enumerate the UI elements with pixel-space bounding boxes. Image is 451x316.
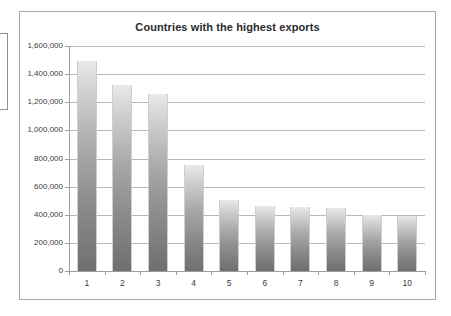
x-axis-tick-label: 6 bbox=[262, 278, 267, 288]
y-axis-tick-label: 1,400,000 bbox=[19, 69, 63, 78]
bar bbox=[184, 165, 204, 271]
x-axis-tick-mark bbox=[354, 271, 355, 275]
x-axis-tick-mark bbox=[389, 271, 390, 275]
y-axis-tick-mark bbox=[65, 187, 69, 188]
y-axis-tick-label: 400,000 bbox=[19, 210, 63, 219]
bar bbox=[362, 215, 382, 271]
x-axis-tick-label: 8 bbox=[334, 278, 339, 288]
bar bbox=[290, 207, 310, 271]
chart-container: Countries with the highest exports 0200,… bbox=[19, 11, 436, 300]
x-axis-tick-mark bbox=[318, 271, 319, 275]
x-axis-tick-mark bbox=[247, 271, 248, 275]
y-axis-tick-mark bbox=[65, 215, 69, 216]
x-axis-tick-mark bbox=[283, 271, 284, 275]
bar bbox=[255, 206, 275, 271]
bar bbox=[148, 94, 168, 271]
x-axis-tick-mark bbox=[176, 271, 177, 275]
bar bbox=[112, 85, 132, 271]
y-axis-tick-mark bbox=[65, 74, 69, 75]
x-axis-tick-label: 3 bbox=[156, 278, 161, 288]
y-axis-tick-label: 1,200,000 bbox=[19, 97, 63, 106]
x-axis-tick-label: 5 bbox=[227, 278, 232, 288]
bar-series bbox=[69, 46, 425, 271]
x-axis-tick-label: 10 bbox=[402, 278, 411, 288]
bar bbox=[219, 200, 239, 271]
chart-title: Countries with the highest exports bbox=[20, 21, 435, 33]
y-axis-tick-label: 1,600,000 bbox=[19, 41, 63, 50]
x-axis-tick-label: 4 bbox=[191, 278, 196, 288]
cropped-adjacent-panel bbox=[0, 33, 8, 110]
x-axis-tick-mark bbox=[140, 271, 141, 275]
y-axis-tick-mark bbox=[65, 159, 69, 160]
y-axis-tick-label: 200,000 bbox=[19, 238, 63, 247]
x-axis-tick-mark bbox=[105, 271, 106, 275]
bar bbox=[77, 61, 97, 271]
y-axis-tick-label: 0 bbox=[19, 266, 63, 275]
bar bbox=[397, 216, 417, 271]
x-axis-tick-label: 2 bbox=[120, 278, 125, 288]
x-axis-tick-label: 9 bbox=[369, 278, 374, 288]
x-axis-tick-mark bbox=[425, 271, 426, 275]
y-axis-tick-mark bbox=[65, 102, 69, 103]
x-axis-tick-labels: 12345678910 bbox=[69, 278, 425, 292]
x-axis-tick-label: 7 bbox=[298, 278, 303, 288]
y-axis-tick-mark bbox=[65, 243, 69, 244]
y-axis-tick-mark bbox=[65, 46, 69, 47]
bar bbox=[326, 208, 346, 271]
x-axis-tick-mark bbox=[69, 271, 70, 275]
y-axis-tick-label: 800,000 bbox=[19, 154, 63, 163]
x-axis-tick-label: 1 bbox=[84, 278, 89, 288]
y-axis-tick-label: 1,000,000 bbox=[19, 125, 63, 134]
x-axis-tick-mark bbox=[211, 271, 212, 275]
y-axis-tick-mark bbox=[65, 130, 69, 131]
y-axis-tick-label: 600,000 bbox=[19, 182, 63, 191]
y-axis-tick-labels: 0200,000400,000600,000800,0001,000,0001,… bbox=[17, 46, 63, 271]
